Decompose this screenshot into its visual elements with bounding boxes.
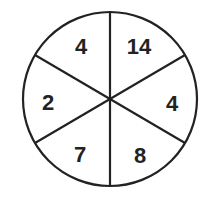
section-top-right: 14 — [127, 34, 152, 59]
section-bottom-left: 7 — [74, 142, 86, 167]
section-top-left: 4 — [75, 34, 88, 59]
section-right: 4 — [166, 91, 179, 116]
section-left: 2 — [42, 90, 54, 115]
spinner-diagram: 4 14 4 8 7 2 — [0, 0, 212, 203]
section-bottom-right: 8 — [134, 143, 146, 168]
